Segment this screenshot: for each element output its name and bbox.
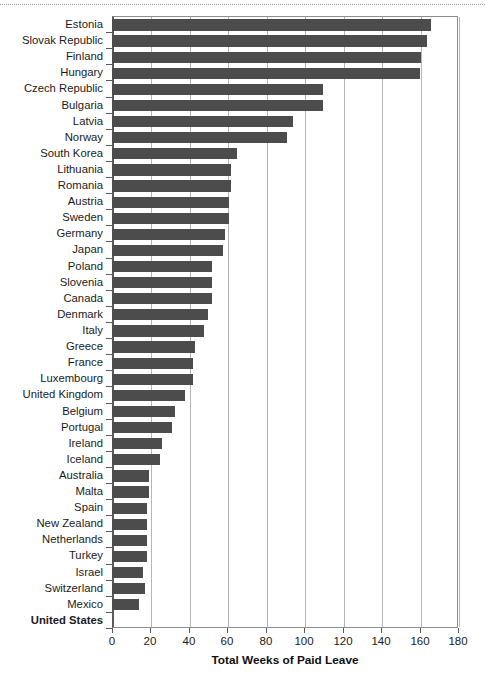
bar[interactable] — [112, 583, 145, 594]
category-label: Denmark — [57, 306, 103, 322]
bar[interactable] — [112, 341, 195, 352]
bar[interactable] — [112, 261, 212, 272]
x-tick-label-20: 20 — [144, 635, 157, 647]
category-label: Hungary — [60, 64, 103, 80]
bar-row[interactable] — [112, 129, 458, 145]
bar-row[interactable] — [112, 322, 458, 338]
bar[interactable] — [112, 535, 147, 546]
bar[interactable] — [112, 35, 427, 46]
bar[interactable] — [112, 197, 229, 208]
bar-row[interactable] — [112, 64, 458, 80]
category-label: Portugal — [61, 419, 103, 435]
bar-row[interactable] — [112, 80, 458, 96]
bar-row[interactable] — [112, 113, 458, 129]
bar[interactable] — [112, 100, 323, 111]
bar[interactable] — [112, 567, 143, 578]
bar[interactable] — [112, 325, 204, 336]
bar-row[interactable] — [112, 403, 458, 419]
bar[interactable] — [112, 277, 212, 288]
bar[interactable] — [112, 406, 175, 417]
bar-row[interactable] — [112, 225, 458, 241]
bar[interactable] — [112, 374, 193, 385]
bar[interactable] — [112, 180, 231, 191]
category-label: Switzerland — [45, 580, 103, 596]
category-label: Bulgaria — [62, 97, 103, 113]
bar-row[interactable] — [112, 580, 458, 596]
bar-row[interactable] — [112, 161, 458, 177]
bar[interactable] — [112, 390, 185, 401]
category-label: United States — [31, 612, 103, 628]
bar-row[interactable] — [112, 32, 458, 48]
bar-row[interactable] — [112, 499, 458, 515]
bar-row[interactable] — [112, 515, 458, 531]
bar-row[interactable] — [112, 241, 458, 257]
bar[interactable] — [112, 245, 223, 256]
category-label: Iceland — [67, 451, 103, 467]
bar-row[interactable] — [112, 564, 458, 580]
x-tick-20 — [150, 628, 151, 633]
bar-row[interactable] — [112, 145, 458, 161]
category-label: Slovenia — [60, 274, 103, 290]
x-tick-60 — [227, 628, 228, 633]
bar[interactable] — [112, 148, 237, 159]
bar-row[interactable] — [112, 48, 458, 64]
bar-row[interactable] — [112, 435, 458, 451]
bar[interactable] — [112, 68, 420, 79]
bar[interactable] — [112, 84, 323, 95]
bar[interactable] — [112, 551, 147, 562]
bar-row[interactable] — [112, 451, 458, 467]
category-label: Czech Republic — [24, 80, 103, 96]
bar[interactable] — [112, 19, 431, 30]
bar-row[interactable] — [112, 531, 458, 547]
x-tick-label-180: 180 — [448, 635, 467, 647]
x-tick-40 — [189, 628, 190, 633]
gridline-180 — [459, 17, 460, 627]
bar[interactable] — [112, 132, 287, 143]
bar-row[interactable] — [112, 354, 458, 370]
x-tick-label-120: 120 — [333, 635, 352, 647]
bar[interactable] — [112, 486, 149, 497]
bar[interactable] — [112, 599, 139, 610]
x-tick-140 — [381, 628, 382, 633]
bar-row[interactable] — [112, 193, 458, 209]
bar[interactable] — [112, 422, 172, 433]
bar-row[interactable] — [112, 483, 458, 499]
category-label: Germany — [57, 225, 103, 241]
bar-row[interactable] — [112, 338, 458, 354]
bar[interactable] — [112, 52, 421, 63]
bar-row[interactable] — [112, 547, 458, 563]
bar-row[interactable] — [112, 306, 458, 322]
bar-row[interactable] — [112, 596, 458, 612]
bar[interactable] — [112, 309, 208, 320]
category-label: Slovak Republic — [22, 32, 103, 48]
bar-row[interactable] — [112, 386, 458, 402]
bar-row[interactable] — [112, 370, 458, 386]
bar[interactable] — [112, 454, 160, 465]
x-tick-label-140: 140 — [371, 635, 390, 647]
paid-leave-bar-chart: EstoniaSlovak RepublicFinlandHungaryCzec… — [0, 0, 485, 679]
category-label: Malta — [75, 483, 103, 499]
bar[interactable] — [112, 229, 225, 240]
x-tick-100 — [304, 628, 305, 633]
bar-row[interactable] — [112, 290, 458, 306]
bar-row[interactable] — [112, 612, 458, 628]
bar-row[interactable] — [112, 97, 458, 113]
x-tick-0 — [112, 628, 113, 633]
bar[interactable] — [112, 293, 212, 304]
bar-row[interactable] — [112, 177, 458, 193]
bar[interactable] — [112, 438, 162, 449]
bar[interactable] — [112, 164, 231, 175]
bar[interactable] — [112, 503, 147, 514]
bar-row[interactable] — [112, 274, 458, 290]
bar[interactable] — [112, 213, 229, 224]
bar[interactable] — [112, 116, 293, 127]
bar-row[interactable] — [112, 258, 458, 274]
bar[interactable] — [112, 470, 149, 481]
bar-row[interactable] — [112, 16, 458, 32]
bars-container — [112, 16, 458, 628]
bar-row[interactable] — [112, 467, 458, 483]
bar[interactable] — [112, 519, 147, 530]
bar-row[interactable] — [112, 419, 458, 435]
bar-row[interactable] — [112, 209, 458, 225]
bar[interactable] — [112, 358, 193, 369]
